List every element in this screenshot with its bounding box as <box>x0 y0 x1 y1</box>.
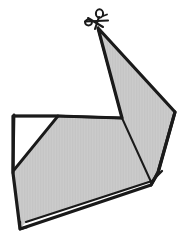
scissors-crossbar <box>85 21 108 22</box>
illustration-canvas: Cut shape with scissors Hand-drawn line … <box>0 0 190 246</box>
cut-shape-figure: Cut shape with scissors Hand-drawn line … <box>0 0 190 246</box>
left-edge <box>13 115 14 173</box>
